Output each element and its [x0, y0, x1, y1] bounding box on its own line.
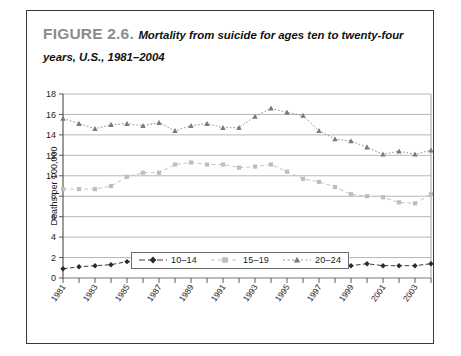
data-point	[108, 122, 113, 127]
x-tick-label: 2003	[401, 282, 420, 303]
x-tick-label: 1987	[145, 282, 164, 303]
chart-plot-area: Deaths per 100,000 024681012141618198119…	[27, 77, 435, 343]
data-point	[364, 261, 369, 266]
x-tick-label: 2001	[369, 282, 388, 303]
data-point	[429, 192, 433, 196]
data-point	[156, 120, 161, 125]
data-point	[396, 263, 401, 268]
data-point	[412, 263, 417, 268]
x-tick-label: 1995	[273, 282, 292, 303]
data-point	[221, 162, 225, 166]
y-axis-title: Deaths per 100,000	[49, 126, 59, 246]
data-point	[92, 263, 97, 268]
x-tick-label: 1985	[113, 282, 132, 303]
data-point	[332, 136, 337, 141]
data-point	[172, 128, 177, 133]
data-point	[349, 192, 353, 196]
x-tick-label: 1993	[241, 282, 260, 303]
data-point	[157, 171, 161, 175]
x-tick-label: 1989	[177, 282, 196, 303]
data-point	[396, 148, 401, 153]
data-point	[237, 166, 241, 170]
legend-label-20-24: 20–24	[315, 255, 341, 265]
data-point	[109, 184, 113, 188]
chart-legend: 10–14 15–19 20–24	[131, 252, 349, 269]
figure-caption: FIGURE 2.6. Mortality from suicide for a…	[43, 23, 421, 67]
x-tick-label: 1997	[305, 282, 324, 303]
data-point	[93, 187, 97, 191]
data-point	[285, 170, 289, 174]
data-point	[365, 194, 369, 198]
data-point	[173, 162, 177, 166]
x-tick-label: 1991	[209, 282, 228, 303]
data-point	[205, 162, 209, 166]
data-point	[413, 201, 417, 205]
data-point	[76, 264, 81, 269]
data-point	[61, 187, 65, 191]
legend-item-20-24: 20–24	[283, 255, 341, 265]
data-point	[92, 126, 97, 131]
data-point	[381, 195, 385, 199]
legend-item-10-14: 10–14	[139, 255, 197, 265]
data-point	[253, 164, 257, 168]
data-point	[300, 113, 305, 118]
data-point	[364, 144, 369, 149]
data-point	[428, 261, 433, 266]
legend-marker-triangle-icon	[283, 255, 311, 265]
legend-marker-square-icon	[211, 255, 239, 265]
y-tick-label: 2	[51, 253, 56, 263]
y-tick-label: 18	[46, 89, 56, 99]
series-15-19	[61, 160, 433, 205]
line-chart: 0246810121416181981198319851987198919911…	[27, 77, 435, 343]
x-tick-label: 1999	[337, 282, 356, 303]
data-point	[124, 121, 129, 126]
data-point	[316, 128, 321, 133]
figure-card: FIGURE 2.6. Mortality from suicide for a…	[26, 10, 434, 344]
data-point	[60, 266, 65, 271]
data-point	[60, 116, 65, 121]
legend-label-15-19: 15–19	[243, 255, 269, 265]
legend-label-10-14: 10–14	[171, 255, 197, 265]
data-point	[397, 200, 401, 204]
figure-label: FIGURE 2.6.	[43, 25, 134, 42]
x-tick-label: 1983	[81, 282, 100, 303]
series-20-24	[60, 106, 433, 157]
data-point	[124, 259, 129, 264]
data-point	[188, 123, 193, 128]
data-point	[428, 147, 433, 152]
data-point	[268, 106, 273, 111]
data-point	[380, 263, 385, 268]
data-point	[141, 171, 145, 175]
x-tick-label: 1981	[49, 282, 68, 303]
data-point	[301, 177, 305, 181]
data-point	[189, 160, 193, 164]
y-tick-label: 0	[51, 273, 56, 283]
data-point	[220, 125, 225, 130]
data-point	[317, 180, 321, 184]
y-tick-label: 16	[46, 110, 56, 120]
data-point	[125, 175, 129, 179]
legend-item-15-19: 15–19	[211, 255, 269, 265]
data-point	[269, 162, 273, 166]
data-point	[333, 185, 337, 189]
legend-marker-diamond-icon	[139, 255, 167, 265]
data-point	[108, 262, 113, 267]
data-point	[380, 152, 385, 157]
data-point	[412, 152, 417, 157]
data-point	[348, 263, 353, 268]
data-point	[77, 187, 81, 191]
